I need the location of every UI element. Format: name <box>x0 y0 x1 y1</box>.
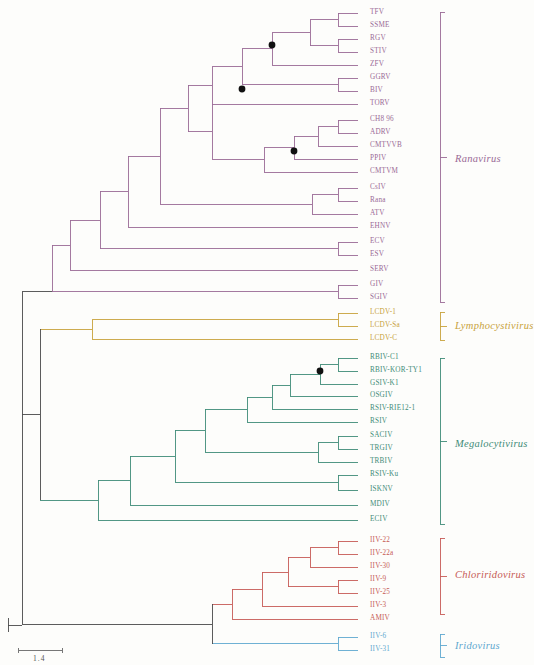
taxon-label: EHNV <box>370 223 391 230</box>
taxon-label: GIV <box>370 281 383 288</box>
genus-label-lymphocystivirus: Lymphocystivirus <box>455 320 534 331</box>
taxon-label: RSIV-Ku <box>370 471 398 478</box>
taxon-label: TRGIV <box>370 445 393 452</box>
taxon-label: ADRV <box>370 129 391 136</box>
taxon-label: ECIV <box>370 516 388 523</box>
taxon-label: RSIV <box>370 418 387 425</box>
taxon-label: SERV <box>370 266 389 273</box>
taxon-label: ATV <box>370 210 385 217</box>
taxon-label: IIV-30 <box>370 563 390 570</box>
taxon-label: TRBIV <box>370 458 393 465</box>
taxon-label: GGRV <box>370 74 391 81</box>
genus-label-chloriridovirus: Chloriridovirus <box>455 569 525 580</box>
genus-label-ranavirus: Ranavirus <box>455 153 501 164</box>
taxon-label: SGIV <box>370 294 388 301</box>
taxon-label: Rana <box>370 197 386 204</box>
taxon-label: STIV <box>370 48 387 55</box>
taxon-label: ECV <box>370 238 385 245</box>
taxon-label: CMTVM <box>370 168 398 175</box>
scale-bar-label: 1.4 <box>33 654 45 663</box>
taxon-label: CMTVVB <box>370 142 402 149</box>
taxon-label: RSIV-RIE12-1 <box>370 405 415 412</box>
taxon-label: IIV-25 <box>370 589 390 596</box>
taxon-label: LCDV-Sa <box>370 322 400 329</box>
taxon-label: CH8 96 <box>370 116 394 123</box>
genus-label-megalocytivirus: Megalocytivirus <box>455 438 528 449</box>
node-support-dot <box>291 148 298 155</box>
node-support-dot <box>239 86 246 93</box>
taxon-label: SACIV <box>370 432 393 439</box>
taxon-label: RBIV-KOR-TY1 <box>370 367 422 374</box>
taxon-label: IIV-3 <box>370 602 386 609</box>
taxon-label: LCDV-1 <box>370 309 396 316</box>
taxon-label: MDIV <box>370 501 390 508</box>
taxon-label: GSIV-K1 <box>370 380 399 387</box>
taxon-label: PPIV <box>370 155 386 162</box>
taxon-label: BIV <box>370 87 383 94</box>
genus-label-iridovirus: Iridovirus <box>455 640 500 651</box>
phylogenetic-tree-figure: TFVSSMERGVSTIVZFVGGRVBIVTORVCH8 96ADRVCM… <box>0 0 534 665</box>
taxon-label: SSME <box>370 22 390 29</box>
taxon-label: IIV-9 <box>370 576 386 583</box>
taxon-label: OSGIV <box>370 392 393 399</box>
taxon-label: IIV-22 <box>370 537 390 544</box>
taxon-label: TORV <box>370 100 390 107</box>
taxon-label: RGV <box>370 35 386 42</box>
taxon-label: TFV <box>370 9 384 16</box>
taxon-label: ISKNV <box>370 486 393 493</box>
taxon-label: LCDV-C <box>370 335 397 342</box>
taxon-label: AMIV <box>370 615 390 622</box>
node-support-dot <box>317 368 324 375</box>
taxon-label: IIV-6 <box>370 633 386 640</box>
taxon-label: RBIV-C1 <box>370 354 399 361</box>
tree-branches-svg <box>0 0 534 665</box>
node-support-dot <box>269 42 276 49</box>
taxon-label: ESV <box>370 251 384 258</box>
taxon-label: ZFV <box>370 61 384 68</box>
taxon-label: IIV-22a <box>370 550 394 557</box>
taxon-label: CsIV <box>370 184 386 191</box>
taxon-label: IIV-31 <box>370 646 390 653</box>
